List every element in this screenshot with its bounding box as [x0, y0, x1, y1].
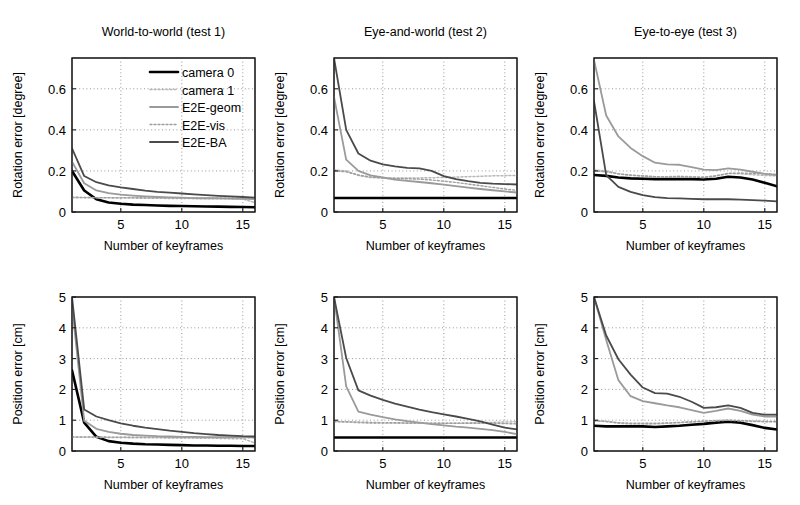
chart-rotation-test3: Eye-to-eye (test 3)5101500.20.40.6Number…	[522, 8, 788, 258]
plot-frame	[594, 297, 777, 451]
plot-frame	[72, 297, 255, 451]
x-axis-label: Number of keyframes	[104, 478, 223, 492]
y-tick-label: 4	[59, 321, 66, 336]
x-axis-label: Number of keyframes	[626, 478, 745, 492]
x-tick-label: 10	[697, 456, 711, 471]
y-tick-label: 1	[321, 413, 328, 428]
chart-position-test2: 51015012345Number of keyframesPosition e…	[262, 255, 528, 505]
y-axis-label: Position error [cm]	[533, 323, 547, 424]
panel-rotation-test2: Eye-and-world (test 2)5101500.20.40.6Num…	[262, 8, 528, 258]
x-tick-label: 5	[117, 217, 124, 232]
x-tick-label: 10	[437, 217, 451, 232]
y-tick-label: 0	[321, 444, 328, 459]
y-tick-label: 0.4	[570, 123, 588, 138]
x-tick-label: 15	[498, 217, 512, 232]
x-tick-label: 5	[379, 456, 386, 471]
x-axis-label: Number of keyframes	[366, 239, 485, 253]
y-tick-label: 2	[581, 382, 588, 397]
y-tick-label: 3	[321, 352, 328, 367]
y-tick-label: 4	[321, 321, 328, 336]
y-tick-label: 0.6	[570, 82, 588, 97]
y-tick-label: 4	[581, 321, 588, 336]
y-tick-label: 0	[59, 205, 66, 220]
y-axis-label: Rotation error [degree]	[533, 72, 547, 198]
x-tick-label: 10	[175, 456, 189, 471]
y-tick-label: 0	[581, 444, 588, 459]
legend-label-e2e-vis: E2E-vis	[182, 119, 225, 133]
x-tick-label: 5	[117, 456, 124, 471]
x-tick-label: 5	[379, 217, 386, 232]
y-tick-label: 3	[581, 352, 588, 367]
x-tick-label: 15	[236, 217, 250, 232]
y-tick-label: 0	[581, 205, 588, 220]
panel-position-test2: 51015012345Number of keyframesPosition e…	[262, 255, 528, 505]
figure-canvas: World-to-world (test 1)5101500.20.40.6Nu…	[0, 0, 800, 505]
y-tick-label: 0.6	[310, 82, 328, 97]
y-axis-label: Rotation error [degree]	[273, 72, 287, 198]
y-tick-label: 5	[59, 290, 66, 305]
plot-frame	[334, 297, 517, 451]
plot-frame	[72, 58, 255, 212]
x-tick-label: 15	[758, 456, 772, 471]
panel-position-test1: 51015012345Number of keyframesPosition e…	[0, 255, 266, 505]
y-tick-label: 5	[581, 290, 588, 305]
x-tick-label: 5	[639, 456, 646, 471]
x-axis-label: Number of keyframes	[626, 239, 745, 253]
y-tick-label: 5	[321, 290, 328, 305]
y-axis-label: Position error [cm]	[11, 323, 25, 424]
legend-label-camera-0: camera 0	[182, 66, 234, 80]
y-tick-label: 2	[321, 382, 328, 397]
x-axis-label: Number of keyframes	[366, 478, 485, 492]
panel-position-test3: 51015012345Number of keyframesPosition e…	[522, 255, 788, 505]
x-tick-label: 10	[437, 456, 451, 471]
legend-label-camera-1: camera 1	[182, 84, 234, 98]
legend-label-e2e-ba: E2E-BA	[182, 136, 227, 150]
panel-title: Eye-to-eye (test 3)	[634, 25, 737, 39]
panel-rotation-test3: Eye-to-eye (test 3)5101500.20.40.6Number…	[522, 8, 788, 258]
x-tick-label: 15	[236, 456, 250, 471]
x-axis-label: Number of keyframes	[104, 239, 223, 253]
y-tick-label: 0.4	[48, 123, 66, 138]
y-tick-label: 1	[581, 413, 588, 428]
x-tick-label: 15	[498, 456, 512, 471]
y-tick-label: 0.2	[570, 164, 588, 179]
y-tick-label: 0.2	[310, 164, 328, 179]
chart-rotation-test1: World-to-world (test 1)5101500.20.40.6Nu…	[0, 8, 266, 258]
chart-position-test3: 51015012345Number of keyframesPosition e…	[522, 255, 788, 505]
x-tick-label: 10	[175, 217, 189, 232]
y-tick-label: 0.6	[48, 82, 66, 97]
y-tick-label: 0.4	[310, 123, 328, 138]
y-tick-label: 2	[59, 382, 66, 397]
panel-rotation-test1: World-to-world (test 1)5101500.20.40.6Nu…	[0, 8, 266, 258]
chart-rotation-test2: Eye-and-world (test 2)5101500.20.40.6Num…	[262, 8, 528, 258]
y-axis-label: Rotation error [degree]	[11, 72, 25, 198]
plot-frame	[334, 58, 517, 212]
y-axis-label: Position error [cm]	[273, 323, 287, 424]
y-tick-label: 1	[59, 413, 66, 428]
chart-position-test1: 51015012345Number of keyframesPosition e…	[0, 255, 266, 505]
y-tick-label: 0	[59, 444, 66, 459]
y-tick-label: 0.2	[48, 164, 66, 179]
y-tick-label: 0	[321, 205, 328, 220]
panel-title: World-to-world (test 1)	[102, 25, 225, 39]
y-tick-label: 3	[59, 352, 66, 367]
x-tick-label: 5	[639, 217, 646, 232]
panel-title: Eye-and-world (test 2)	[364, 25, 487, 39]
legend-label-e2e-geom: E2E-geom	[182, 101, 241, 115]
x-tick-label: 15	[758, 217, 772, 232]
x-tick-label: 10	[697, 217, 711, 232]
